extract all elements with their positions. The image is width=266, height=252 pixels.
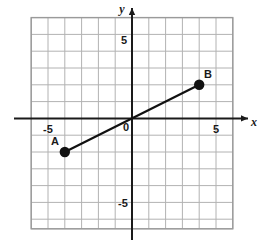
- point-a-label: A: [51, 135, 59, 147]
- coordinate-plane-figure: y x -5 5 5 -5 0 A B: [0, 0, 266, 252]
- x-tick-label-neg5: -5: [43, 123, 53, 135]
- y-tick-label-pos5: 5: [121, 34, 127, 46]
- point-b-label: B: [204, 68, 212, 80]
- x-tick-label-pos5: 5: [213, 123, 219, 135]
- y-tick-label-neg5: -5: [118, 197, 128, 209]
- point-a-marker[interactable]: [60, 147, 70, 157]
- graph-canvas: y x -5 5 5 -5 0 A B: [0, 0, 266, 252]
- point-b-marker[interactable]: [194, 80, 204, 90]
- y-axis-label: y: [117, 2, 125, 16]
- x-axis-label: x: [250, 115, 257, 129]
